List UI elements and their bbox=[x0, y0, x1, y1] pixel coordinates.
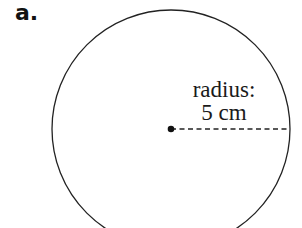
circle-outline bbox=[52, 10, 290, 228]
circle-diagram: radius: 5 cm bbox=[0, 0, 302, 228]
radius-label-line2: 5 cm bbox=[201, 100, 246, 125]
radius-label-line1: radius: bbox=[193, 77, 256, 102]
center-point bbox=[168, 126, 175, 133]
